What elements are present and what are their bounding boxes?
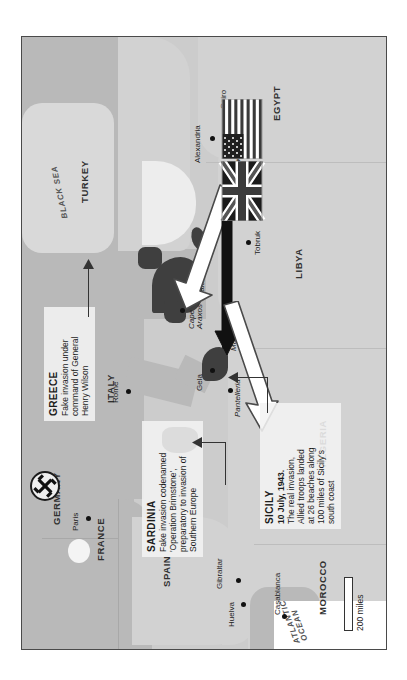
scale-bar: 200 miles — [344, 577, 365, 631]
leader-arrowhead-sicily — [228, 372, 238, 383]
scale-bar-graphic — [344, 577, 353, 631]
map-frame: BLACK SEA ATLANTIC OCEAN GERMANY FRANCE … — [21, 36, 387, 650]
label-gela: Gela — [196, 374, 204, 391]
label-turkey: TURKEY — [80, 160, 90, 203]
inland-water-1 — [68, 539, 90, 563]
label-paris: Paris — [72, 513, 80, 531]
callout-sicily: SICILY 10 July, 1943. The real invasion,… — [260, 403, 341, 529]
label-france: FRANCE — [96, 518, 106, 561]
leader-line-sardinia-h — [225, 442, 226, 485]
callout-sardinia-heading: SARDINIA — [146, 426, 157, 552]
city-dot-gela — [210, 368, 215, 373]
swastika-icon — [30, 471, 60, 501]
callout-greece: GREECE Fake invasion under command of Ge… — [44, 307, 95, 421]
label-gibraltar: Gibraltar — [216, 558, 224, 589]
city-dot-casablanca — [282, 614, 287, 619]
callout-sicily-heading: SICILY — [264, 408, 275, 524]
label-casablanca: Casablanca — [274, 573, 282, 615]
scale-bar-label: 200 miles — [355, 577, 365, 631]
label-spain: SPAIN — [162, 556, 172, 587]
callout-sicily-subheading: 10 July, 1943. — [276, 408, 286, 524]
black-sea-water — [22, 103, 114, 253]
city-dot-tobruk — [246, 240, 251, 245]
label-huelva: Huelva — [228, 602, 236, 627]
city-dot-paris — [86, 516, 91, 521]
label-rome: Rome — [112, 382, 120, 403]
leader-line-greece — [88, 265, 89, 317]
city-dot-huelva — [241, 602, 246, 607]
map-canvas: BLACK SEA ATLANTIC OCEAN GERMANY FRANCE … — [22, 37, 386, 649]
label-libya: LIBYA — [294, 248, 304, 279]
leader-line-sardinia-v — [200, 442, 226, 443]
leader-line-sicily-h — [267, 377, 268, 413]
callout-greece-body: Fake invasion under command of General H… — [60, 312, 90, 416]
map-page: BLACK SEA ATLANTIC OCEAN GERMANY FRANCE … — [0, 0, 407, 680]
label-alexandria: Alexandria — [194, 125, 202, 163]
callout-sicily-body: The real invasion, Allied troops landed … — [286, 408, 336, 524]
label-morocco: MOROCCO — [318, 560, 328, 615]
leader-arrowhead-sardinia — [192, 437, 202, 448]
city-dot-rome — [126, 389, 131, 394]
us-flag-icon — [210, 99, 274, 159]
morocco-algeria-border — [254, 544, 386, 545]
france-spain-border — [118, 499, 119, 649]
allied-flags — [210, 97, 274, 221]
label-tobruk: Tobruk — [254, 231, 262, 255]
city-dot-gibraltar — [236, 578, 241, 583]
union-jack-flag-icon — [210, 161, 274, 221]
callout-greece-heading: GREECE — [48, 312, 59, 416]
leader-line-sicily-v — [236, 377, 268, 378]
leader-arrowhead-greece — [83, 259, 94, 269]
greece-macedonia — [138, 247, 162, 269]
france-south — [118, 319, 144, 499]
